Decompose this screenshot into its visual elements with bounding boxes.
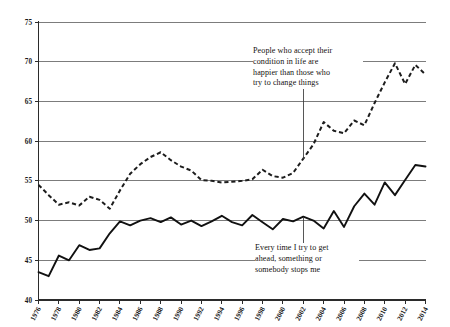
y-tick-label: 75 (25, 19, 33, 27)
x-tick-label: 1982 (90, 305, 104, 322)
y-tick-label: 65 (25, 98, 33, 106)
x-tick-label: 1996 (233, 305, 247, 322)
x-tick-label: 2014 (416, 305, 430, 322)
y-tick-label: 40 (25, 297, 33, 305)
x-tick-label: 1986 (131, 305, 145, 322)
chart-container: 4045505560657075 19761978198019821984198… (0, 0, 450, 327)
y-tick-label: 55 (25, 177, 33, 185)
annotation-accept-condition: People who accept their condition in lif… (253, 46, 363, 89)
x-tick-label: 2000 (273, 305, 287, 322)
series-line-accept-condition (39, 63, 426, 208)
x-tick-label: 2012 (396, 305, 410, 322)
x-axis-tick-labels: 1976197819801982198419861988199019921994… (29, 305, 430, 322)
x-tick-label: 1990 (172, 305, 186, 322)
x-tick-label: 2008 (355, 305, 369, 322)
gridlines (39, 22, 426, 260)
axes (38, 21, 426, 300)
x-tick-label: 2004 (314, 305, 328, 322)
line-chart: 4045505560657075 19761978198019821984198… (0, 0, 450, 327)
y-tick-label: 45 (25, 257, 33, 265)
x-tick-label: 1978 (49, 305, 63, 322)
x-tick-label: 1980 (70, 305, 84, 322)
y-tick-label: 60 (25, 138, 33, 146)
y-tick-label: 70 (25, 58, 33, 66)
x-tick-label: 2002 (294, 305, 308, 322)
annotation-get-ahead: Every time I try to get ahead, something… (255, 243, 359, 275)
y-tick-label: 50 (25, 217, 33, 225)
x-tick-label: 1988 (151, 305, 165, 322)
x-tick-label: 2006 (335, 305, 349, 322)
data-series (39, 63, 426, 276)
x-tick-label: 1992 (192, 305, 206, 322)
x-tick-label: 1994 (212, 305, 226, 322)
x-tick-label: 2010 (375, 305, 389, 322)
y-axis-tick-labels: 4045505560657075 (25, 19, 39, 305)
x-tick-label: 1984 (111, 305, 125, 322)
x-tick-label: 1998 (253, 305, 267, 322)
x-tick-label: 1976 (29, 305, 43, 322)
